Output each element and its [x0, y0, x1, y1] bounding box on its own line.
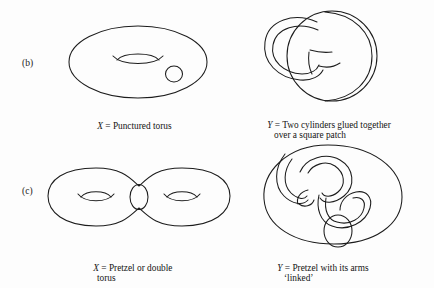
left-hole-lower-arc [81, 192, 111, 197]
big-ring-outer [287, 11, 377, 101]
figure-page: (b) X = Punctured torus Y = Two cylinder… [0, 0, 434, 288]
double-torus-figure [44, 158, 234, 238]
row-label-c: (c) [22, 186, 33, 196]
caption-double-torus: X = Pretzel or doubletorus [84, 252, 172, 288]
caption-equals: = [103, 121, 113, 131]
arm-upper-left-outer [277, 154, 308, 203]
caption-punctured-torus: X = Punctured torus [88, 110, 172, 142]
puncture-hole [166, 66, 183, 82]
caption-equals: = [282, 263, 292, 273]
caption-pretzel-linked: Y = Pretzel with its arms‘linked’ [268, 252, 369, 288]
caption-text-line1: Punctured torus [113, 121, 172, 131]
arm-upper-left-inner [285, 159, 307, 198]
pretzel-hole-ellipse [324, 215, 352, 247]
right-hole-lower-arc [167, 192, 197, 197]
caption-text-line1: Pretzel or double [109, 263, 173, 273]
arm-lower-sweep-inner [325, 197, 364, 223]
caption-equals: = [272, 120, 282, 130]
glue-patch-right [319, 63, 340, 67]
pretzel-linked-figure [256, 142, 416, 248]
row-label-b: (b) [22, 58, 33, 68]
two-cylinders-glued-figure [262, 6, 412, 106]
caption-text-line1: Pretzel with its arms [292, 263, 368, 273]
double-torus-outline [48, 168, 230, 226]
caption-text-line2: over a square patch [258, 130, 391, 141]
caption-text-line2: torus [84, 273, 172, 284]
glue-patch-stem [309, 52, 312, 74]
glue-patch-left [310, 50, 332, 52]
pretzel-outer-outline [264, 145, 402, 244]
punctured-torus-figure [58, 16, 218, 108]
arm-hook-upper-inner [308, 163, 343, 196]
torus-outer-ellipse [69, 26, 207, 98]
waist-ellipse [130, 185, 148, 210]
torus-hole-lower-arc [117, 54, 159, 60]
caption-text-line1: Two cylinders glued together [282, 120, 391, 130]
caption-text-line2: ‘linked’ [268, 273, 369, 284]
caption-equals: = [99, 263, 109, 273]
